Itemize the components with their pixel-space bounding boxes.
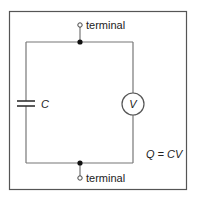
circuit-diagram: C V terminal terminal Q = CV — [0, 0, 198, 204]
equation-label: Q = CV — [146, 148, 184, 160]
capacitor-symbol — [17, 101, 35, 106]
top-terminal-icon — [78, 23, 82, 27]
top-junction-dot — [77, 39, 82, 44]
bottom-terminal-label: terminal — [86, 172, 125, 184]
capacitor-label: C — [41, 98, 49, 110]
top-terminal-label: terminal — [86, 19, 125, 31]
bottom-junction-dot — [77, 160, 82, 165]
bottom-terminal-icon — [78, 176, 82, 180]
